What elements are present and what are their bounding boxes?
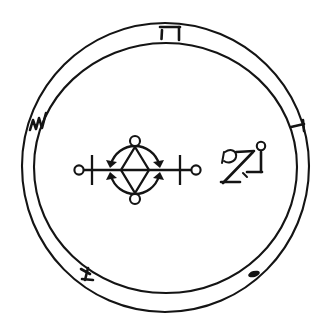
zayin-z-glyph bbox=[221, 151, 254, 183]
zayin-top-bar bbox=[236, 151, 254, 152]
hook-curl-stroke bbox=[224, 150, 236, 162]
upper-arc-left-flare bbox=[106, 160, 117, 168]
upper-arc-circle bbox=[130, 136, 140, 146]
zigzag-mark bbox=[30, 113, 46, 130]
lower-arc-right-flare bbox=[153, 172, 164, 180]
glyph-top-hei bbox=[160, 27, 180, 40]
hei-left-leg bbox=[162, 30, 163, 39]
tick-horizontal bbox=[291, 124, 304, 127]
upper-arc-right-flare bbox=[153, 160, 164, 168]
left-terminal-circle bbox=[74, 165, 83, 174]
seal-drawing bbox=[0, 0, 331, 329]
double-circle-border bbox=[22, 23, 309, 312]
secondary-sigil-group bbox=[221, 142, 265, 183]
zayin-tick bbox=[243, 173, 247, 177]
tick-vertical bbox=[303, 120, 304, 131]
hook-foot bbox=[82, 279, 93, 280]
zayin-diagonal bbox=[223, 152, 253, 183]
primary-sigil bbox=[74, 136, 200, 204]
vav-top-circle bbox=[257, 142, 265, 150]
lower-arc-group bbox=[106, 172, 164, 204]
glyph-left-zigzag bbox=[30, 113, 46, 130]
glyph-right-tick bbox=[291, 120, 304, 131]
right-terminal-circle bbox=[191, 165, 200, 174]
hook-curl-glyph bbox=[222, 150, 236, 163]
inner-circle bbox=[34, 43, 297, 293]
upper-arc-group bbox=[106, 136, 164, 168]
lower-arc-left-flare bbox=[106, 172, 117, 180]
lower-arc-circle bbox=[130, 194, 140, 204]
outer-circle bbox=[22, 23, 309, 312]
seal-canvas: Goetic Seal ה ש י ז · ב ז ו bbox=[0, 0, 331, 329]
